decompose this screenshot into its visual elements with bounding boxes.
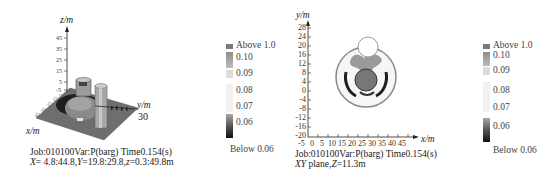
x-tick: 0 <box>310 140 314 148</box>
legend-label: 0.07 <box>236 101 253 111</box>
y-tick: -12 <box>295 114 306 122</box>
y-tick: -8 <box>299 105 306 113</box>
swatch-006 <box>226 114 233 138</box>
y-tick: 0 <box>302 87 306 95</box>
x-tick: 5 <box>320 140 324 148</box>
legend-right: Above 1.0 0.10 0.09 0.08 0.07 0.06 Below… <box>483 40 559 170</box>
y-tick: 20 <box>298 42 306 50</box>
legend-label: 0.08 <box>493 85 510 95</box>
legend-label: 0.06 <box>493 121 510 131</box>
swatch-above <box>483 44 490 49</box>
legend-label: Below 0.06 <box>230 144 274 154</box>
z-tick: 25 <box>56 56 62 64</box>
legend-label: Above 1.0 <box>493 40 533 50</box>
legend-label: 0.08 <box>236 85 253 95</box>
x-tick: 30 <box>368 140 376 148</box>
y-tick: 24 <box>298 33 306 41</box>
z-axis-label: z/m <box>60 15 73 26</box>
swatch-009 <box>226 70 233 78</box>
y-tick: 16 <box>298 51 306 59</box>
swatch-008-007 <box>483 82 490 112</box>
x-tick: 40 <box>388 140 396 148</box>
x-axis-label: x/m <box>421 134 435 145</box>
swatch-008-007 <box>226 84 233 112</box>
y-tick: -16 <box>295 123 306 131</box>
x-tick: 15 <box>338 140 346 148</box>
x-tick: 45 <box>398 140 406 148</box>
x-tick: 35 <box>378 140 386 148</box>
swatch-006 <box>483 118 490 142</box>
y-axis-label: y/m <box>137 100 151 111</box>
x-tick: 10 <box>328 140 336 148</box>
x-tick: 20 <box>348 140 356 148</box>
z-tick: 15 <box>56 67 62 75</box>
figure-3d: 45 35 25 15 5 45 35 25 15 5 -5 z/m y/m 3… <box>0 0 200 182</box>
y-tick: -4 <box>299 96 306 104</box>
figure-xy-caption-line2: XY plane,Z=11.3m <box>295 159 366 170</box>
legend-label: 0.09 <box>493 65 510 75</box>
y-tick: 4 <box>302 78 306 86</box>
swatch-010 <box>483 52 490 66</box>
swatch-above <box>226 44 233 49</box>
legend-label: 0.10 <box>493 50 510 60</box>
y-tick: 8 <box>302 69 306 77</box>
x-tick: -5 <box>298 140 305 148</box>
figure-xy-plane: y/m 28 24 20 16 1 <box>280 0 470 182</box>
y-tick: 28 <box>298 24 306 32</box>
y-tick-30: 30 <box>138 111 148 122</box>
legend-label: 0.09 <box>236 68 253 78</box>
y-tick: 12 <box>298 60 306 68</box>
z-tick: 35 <box>56 45 62 53</box>
legend-label: 0.10 <box>236 52 253 62</box>
swatch-009 <box>483 67 490 75</box>
legend-label: 0.07 <box>493 102 510 112</box>
legend-label: Above 1.0 <box>236 40 276 50</box>
x-axis-label: x/m <box>26 126 40 137</box>
x-tick: 25 <box>358 140 366 148</box>
z-tick: 5 <box>59 78 62 86</box>
figure-3d-caption-line2: X= 4.8:44.8,Y=19.8:29.8,z=0.3:49.8m <box>30 157 174 168</box>
swatch-010 <box>226 52 233 68</box>
legend-label: Below 0.06 <box>493 145 537 155</box>
z-tick: 45 <box>56 34 62 42</box>
plot-xy-contour <box>280 0 470 150</box>
legend-label: 0.06 <box>236 117 253 127</box>
z-tick: -5 <box>56 86 61 94</box>
